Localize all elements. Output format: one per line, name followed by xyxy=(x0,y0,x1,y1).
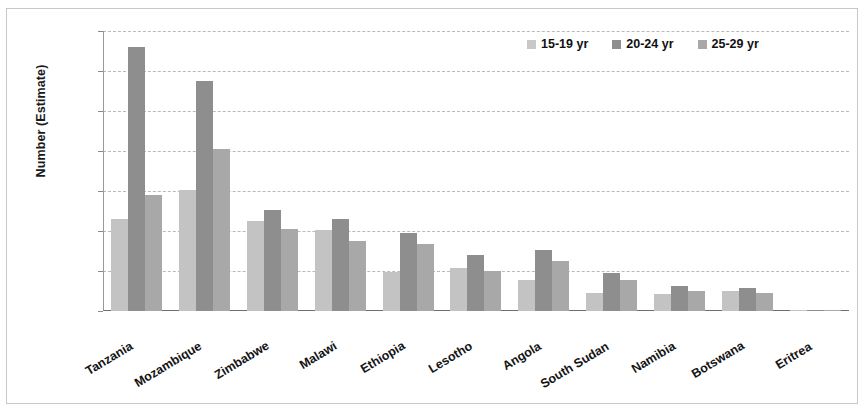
bar xyxy=(332,219,349,311)
bar xyxy=(586,293,603,311)
bar-group xyxy=(781,31,849,311)
bar-group xyxy=(239,31,307,311)
bar xyxy=(535,250,552,311)
bar xyxy=(620,280,637,311)
bar xyxy=(196,81,213,311)
bar xyxy=(790,310,807,311)
bar xyxy=(603,273,620,311)
bar xyxy=(383,272,400,311)
x-tick-label: Angola xyxy=(500,339,544,373)
bar xyxy=(281,229,298,311)
bar-group xyxy=(578,31,646,311)
x-tick-label: Botswana xyxy=(689,339,747,381)
bar xyxy=(349,241,366,311)
bar xyxy=(111,219,128,311)
y-tick-mark xyxy=(98,311,103,312)
bar xyxy=(450,268,467,311)
x-tick-label: South Sudan xyxy=(538,339,611,391)
bar xyxy=(722,291,739,311)
bar xyxy=(484,271,501,311)
bar-group xyxy=(374,31,442,311)
bar xyxy=(264,210,281,311)
x-tick-label: Eritrea xyxy=(773,339,814,371)
bar xyxy=(247,221,264,311)
bar xyxy=(807,310,824,311)
chart-frame: Number (Estimate) 15-19 yr20-24 yr25-29 … xyxy=(6,8,858,404)
plot-area: 02 0004 0006 0008 00010 00012 00014 000 … xyxy=(103,31,849,311)
bar-group xyxy=(646,31,714,311)
bar xyxy=(688,291,705,311)
bar-groups xyxy=(103,31,849,311)
bar xyxy=(179,190,196,311)
bar xyxy=(145,195,162,311)
x-tick-label: Tanzania xyxy=(83,339,135,378)
bar-group xyxy=(171,31,239,311)
bar-group xyxy=(713,31,781,311)
bar xyxy=(756,293,773,311)
bar xyxy=(824,310,841,311)
bar-group xyxy=(510,31,578,311)
bar xyxy=(400,233,417,311)
x-tick-label: Ethiopia xyxy=(358,339,407,376)
bar xyxy=(671,286,688,311)
bar-group xyxy=(442,31,510,311)
x-tick-label: Namibia xyxy=(629,339,678,376)
bar xyxy=(739,288,756,311)
x-tick-label: Mozambique xyxy=(132,339,204,390)
bar-group xyxy=(103,31,171,311)
bar xyxy=(315,230,332,311)
bar xyxy=(213,149,230,311)
y-axis-title: Number (Estimate) xyxy=(34,21,48,221)
bar-group xyxy=(306,31,374,311)
bar xyxy=(417,244,434,311)
bar xyxy=(467,255,484,311)
chart-figure: Number (Estimate) 15-19 yr20-24 yr25-29 … xyxy=(0,0,865,412)
bar xyxy=(654,294,671,311)
bar xyxy=(518,280,535,311)
x-tick-label: Malawi xyxy=(297,339,339,372)
bar xyxy=(552,261,569,311)
x-tick-label: Zimbabwe xyxy=(212,339,272,382)
bar xyxy=(128,47,145,311)
x-tick-label: Lesotho xyxy=(426,339,475,376)
